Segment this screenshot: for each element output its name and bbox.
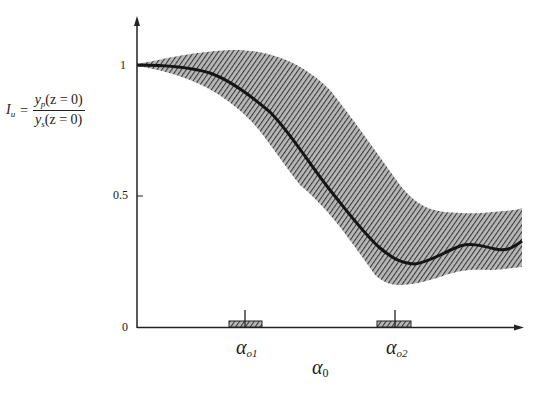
ylabel-fraction: yp(z = 0) ys(z = 0) (33, 92, 85, 129)
y-axis-arrow-icon (134, 16, 140, 26)
x-axis-arrow-icon (514, 325, 524, 331)
ylabel-denominator: ys(z = 0) (35, 111, 82, 129)
y-tick-label-05: 0.5 (113, 188, 128, 203)
marker-label-alpha-o1: αo1 (236, 336, 258, 359)
x-axis-label: α0 (312, 356, 329, 381)
ylabel-lhs: Iu (6, 102, 15, 119)
alpha-o2-range-box (377, 321, 411, 327)
uncertainty-band (137, 50, 522, 285)
y-tick-label-0: 0 (122, 320, 128, 335)
ylabel-numerator: yp(z = 0) (33, 92, 85, 111)
y-tick-label-1: 1 (120, 58, 126, 73)
chart-canvas (0, 0, 547, 398)
y-axis-label: Iu = yp(z = 0) ys(z = 0) (6, 92, 85, 129)
ylabel-equals: = (19, 103, 28, 119)
marker-label-alpha-o2: αo2 (386, 336, 408, 359)
